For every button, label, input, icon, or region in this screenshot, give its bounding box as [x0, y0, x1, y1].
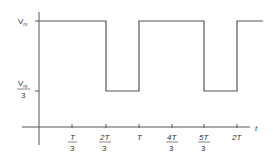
- x-label-t3-den: 3: [70, 144, 75, 153]
- x-axis-label-t: t: [255, 124, 258, 133]
- x-label-5t3-den: 3: [201, 144, 206, 153]
- x-label-2t: 2T: [231, 133, 242, 142]
- x-label-4t3-den: 3: [169, 144, 174, 153]
- x-label-t3-num: T: [70, 133, 76, 142]
- x-label-2t3-num: 2T: [99, 133, 110, 142]
- x-label-4t3-num: 4T: [167, 133, 177, 142]
- waveform-diagram: Vm Vm 3 T 3 2T 3 T 4T 3 5T 3 2T t: [0, 0, 273, 166]
- x-label-2t3-den: 3: [102, 144, 107, 153]
- y-label-vm3-den: 3: [21, 91, 26, 100]
- y-label-vm: Vm: [18, 17, 28, 27]
- x-label-t: T: [137, 133, 143, 142]
- pulse-waveform: [39, 21, 263, 91]
- y-label-vm3-num: Vm: [18, 79, 28, 89]
- x-label-5t3-num: 5T: [199, 133, 209, 142]
